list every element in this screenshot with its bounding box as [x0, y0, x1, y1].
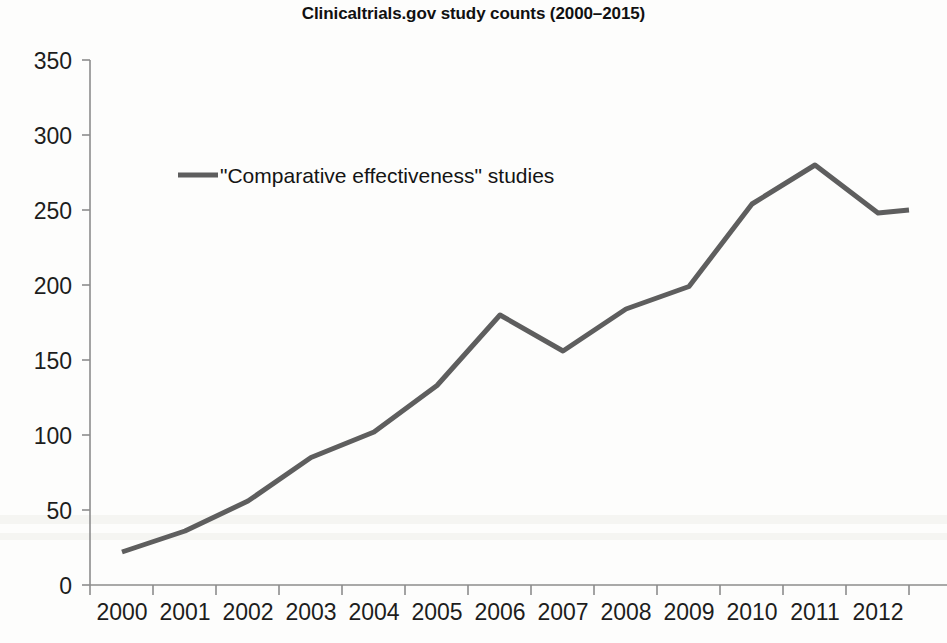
x-tick-label-2003: 2003	[285, 599, 336, 625]
y-tick-label-350: 350	[34, 48, 72, 74]
y-tick-label-200: 200	[34, 273, 72, 299]
x-tick-label-2006: 2006	[474, 599, 525, 625]
chart-figure: Clinicaltrials.gov study counts (2000–20…	[0, 0, 947, 643]
chart-legend: "Comparative effectiveness" studies	[178, 164, 554, 187]
x-tick-label-2009: 2009	[663, 599, 714, 625]
y-tick-label-150: 150	[34, 348, 72, 374]
y-tick-label-50: 50	[46, 498, 72, 524]
y-axis-ticks	[82, 60, 90, 585]
x-tick-label-2011: 2011	[790, 599, 839, 625]
x-axis-ticks	[90, 585, 909, 595]
line-chart-plot: 350 300 250 200 150 100 50 0	[0, 0, 947, 643]
legend-label-comparative-effectiveness: "Comparative effectiveness" studies	[220, 164, 554, 187]
x-axis-tick-labels: 2000 2001 2002 2003 2004 2005 2006 2007 …	[96, 599, 903, 625]
y-tick-label-0: 0	[59, 573, 72, 599]
series-line-comparative-effectiveness	[122, 165, 909, 552]
chart-axes	[90, 60, 947, 585]
x-tick-label-2000: 2000	[96, 599, 147, 625]
x-tick-label-2012: 2012	[852, 599, 903, 625]
x-tick-label-2002: 2002	[222, 599, 273, 625]
y-tick-label-250: 250	[34, 198, 72, 224]
y-tick-label-300: 300	[34, 123, 72, 149]
x-tick-label-2007: 2007	[537, 599, 588, 625]
x-tick-label-2005: 2005	[411, 599, 462, 625]
x-tick-label-2004: 2004	[348, 599, 399, 625]
x-tick-label-2010: 2010	[726, 599, 777, 625]
x-tick-label-2001: 2001	[159, 599, 210, 625]
scan-artifact	[0, 533, 947, 540]
scan-artifact	[0, 515, 947, 524]
y-tick-label-100: 100	[34, 423, 72, 449]
x-tick-label-2008: 2008	[600, 599, 651, 625]
